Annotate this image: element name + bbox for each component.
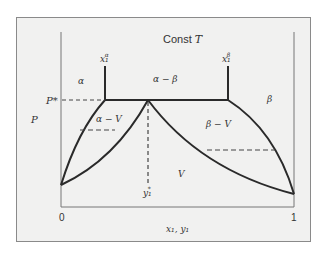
diagram-title: Const T [163,33,204,46]
x-tick-1: 1 [291,212,297,223]
y-axis-label: P [30,114,38,125]
x-tick-0: 0 [59,212,65,223]
beta-bubble-curve [228,100,294,194]
p-star-label: P* [45,95,58,106]
phase-diagram: Const T x₁α x₁β y₁* P* P 0 1 x₁, y₁ α α … [0,0,328,261]
y-star-label: y₁* [142,185,152,198]
region-beta-v: β − V [205,119,232,129]
region-alpha-v: α − V [96,114,123,124]
region-alpha: α [78,76,84,86]
region-beta: β [266,94,272,104]
x-beta-label: x₁β [222,51,231,64]
x-axis-label: x₁, y₁ [166,224,189,234]
alpha-dew-curve [61,100,148,185]
beta-dew-curve [148,100,294,194]
region-vapor: V [178,169,186,179]
x-alpha-label: x₁α [100,51,109,64]
region-alpha-beta: α − β [153,74,178,84]
